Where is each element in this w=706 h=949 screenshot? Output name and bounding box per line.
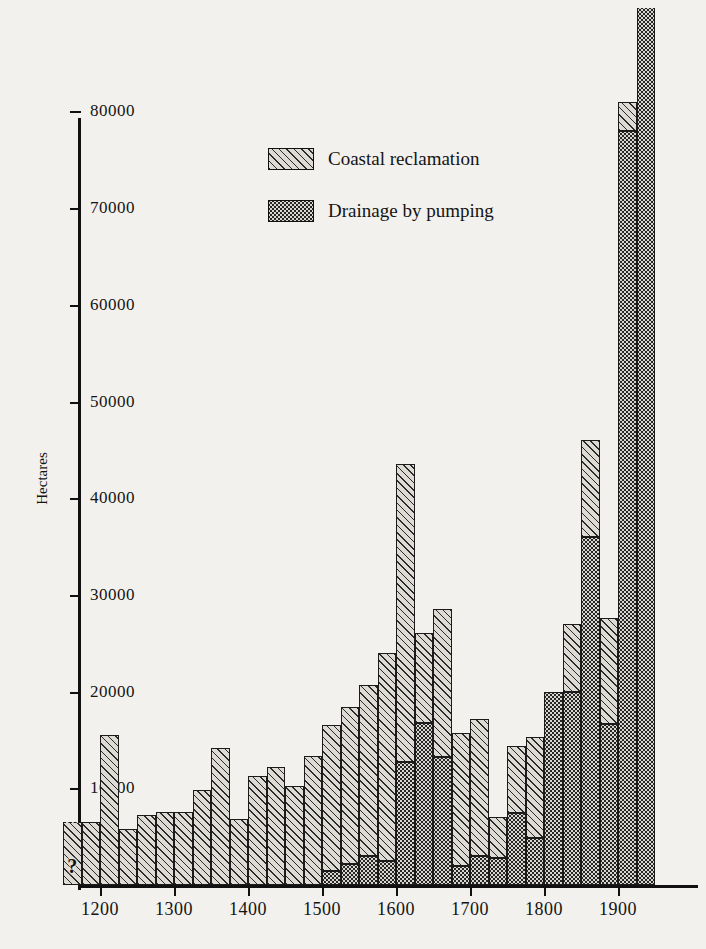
bar-segment-drainage-by-pumping [341,864,360,885]
bar [304,10,323,885]
x-axis-tick [544,886,546,896]
x-axis-tick-label: 1700 [451,899,489,920]
legend-swatch-drainage-by-pumping [268,200,314,222]
x-axis-tick-label: 1500 [303,899,341,920]
bar [507,10,526,885]
bar [563,10,582,885]
x-axis-tick-label: 1200 [81,899,119,920]
x-axis-tick [396,886,398,896]
bar [100,10,119,885]
bar-segment-drainage-by-pumping [526,838,545,885]
bar-segment-drainage-by-pumping [322,871,341,886]
legend-label-drainage-by-pumping: Drainage by pumping [328,200,494,222]
bar [433,10,452,885]
bar-segment-coastal-reclamation [341,707,360,864]
bar-segment-coastal-reclamation [581,440,600,537]
bar-segment-coastal-reclamation [396,464,415,762]
bar-segment-drainage-by-pumping [637,8,656,885]
bar-segment-coastal-reclamation [563,624,582,692]
x-axis-tick-label: 1300 [155,899,193,920]
bar-segment-coastal-reclamation [322,725,341,870]
bar: ? [63,10,82,885]
bar-segment-coastal-reclamation [489,817,508,858]
bar-segment-drainage-by-pumping [470,856,489,885]
x-axis-tick-label: 1400 [229,899,267,920]
bar [452,10,471,885]
bar-segment-coastal-reclamation [267,767,286,885]
bar-segment-coastal-reclamation [618,102,637,131]
x-axis-tick [248,886,250,896]
bar-segment-drainage-by-pumping [378,861,397,885]
bar [544,10,563,885]
chart-legend: Coastal reclamation Drainage by pumping [268,148,494,252]
bar-segment-coastal-reclamation [137,815,156,885]
bar-segment-coastal-reclamation [82,822,101,885]
bar-segment-coastal-reclamation [211,748,230,885]
x-axis-tick-label: 1600 [377,899,415,920]
bar [119,10,138,885]
bar-segment-coastal-reclamation [174,812,193,885]
bar [470,10,489,885]
reclamation-bar-chart: 1000020000300004000050000600007000080000… [0,0,706,949]
x-axis-tick-label: 1800 [525,899,563,920]
y-axis-title: Hectares [34,419,51,539]
bar [193,10,212,885]
bar-segment-drainage-by-pumping [618,131,637,885]
plot-area: ? [80,10,698,885]
uncertainty-marker: ? [67,855,77,878]
x-axis-tick [174,886,176,896]
bar [618,10,637,885]
bar-segment-coastal-reclamation: ? [63,822,82,885]
bar-segment-coastal-reclamation [415,633,434,723]
bar-segment-coastal-reclamation [470,719,489,856]
bar [637,10,656,885]
bar-segment-drainage-by-pumping [544,692,563,885]
bar-segment-coastal-reclamation [304,756,323,885]
bar-segment-drainage-by-pumping [563,692,582,885]
bar [415,10,434,885]
x-axis-tick [322,886,324,896]
bar [341,10,360,885]
bar-segment-coastal-reclamation [378,653,397,861]
bar [267,10,286,885]
bar-segment-drainage-by-pumping [581,537,600,885]
bar [174,10,193,885]
bar [322,10,341,885]
bar-segment-coastal-reclamation [119,829,138,885]
legend-swatch-coastal-reclamation [268,148,314,170]
bar [526,10,545,885]
x-axis-line [78,885,698,888]
bar [600,10,619,885]
bar-segment-coastal-reclamation [507,746,526,814]
bar [581,10,600,885]
bar-segment-coastal-reclamation [600,618,619,724]
bar-segment-coastal-reclamation [156,812,175,885]
legend-label-coastal-reclamation: Coastal reclamation [328,148,479,170]
x-axis-tick [470,886,472,896]
legend-item-coastal-reclamation: Coastal reclamation [268,148,494,170]
bar [396,10,415,885]
bar [230,10,249,885]
bar-segment-coastal-reclamation [452,733,471,865]
bar-segment-coastal-reclamation [100,735,119,885]
bar-segment-drainage-by-pumping [415,723,434,885]
bar-segment-drainage-by-pumping [359,856,378,885]
bar [489,10,508,885]
bar-segment-coastal-reclamation [193,790,212,885]
bar-segment-coastal-reclamation [230,819,249,885]
bar-segment-coastal-reclamation [433,609,452,757]
bar [378,10,397,885]
bar-segment-coastal-reclamation [526,737,545,838]
x-axis-tick [100,886,102,896]
bar [359,10,378,885]
bar-segment-drainage-by-pumping [600,724,619,885]
bar [211,10,230,885]
bar [285,10,304,885]
bar [82,10,101,885]
bar-segment-drainage-by-pumping [396,762,415,885]
bar [248,10,267,885]
bar [137,10,156,885]
bar-segment-drainage-by-pumping [433,757,452,885]
bar-segment-coastal-reclamation [248,776,267,885]
bar-segment-coastal-reclamation [359,685,378,856]
